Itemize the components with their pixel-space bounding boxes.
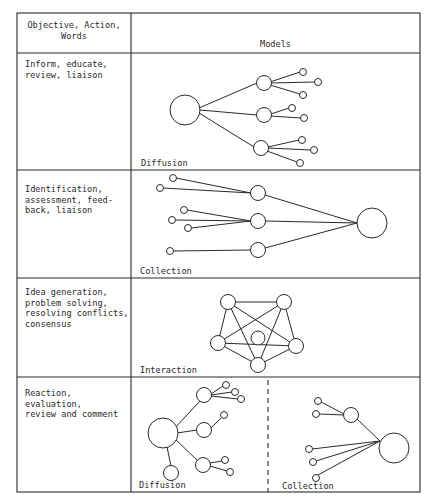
diffusion-diagram <box>170 69 322 167</box>
row-3-objective: Idea generation, problem solving, resolv… <box>25 287 128 329</box>
row-2-objective: Identification, assessment, feed- back, … <box>25 184 113 216</box>
model-label-diffusion: Diffusion <box>141 158 188 169</box>
model-label-diffusion-row4: Diffusion <box>139 480 186 491</box>
header-models: Models <box>131 39 420 50</box>
row-4-objective: Reaction, evaluation, review and comment <box>25 388 118 420</box>
models-table: Objective, Action, Words Models Inform, … <box>0 0 429 503</box>
interaction-diagram <box>211 295 304 373</box>
model-label-interaction: Interaction <box>140 365 197 376</box>
collection-diagram-small <box>306 398 410 482</box>
header-objective: Objective, Action, Words <box>17 20 131 41</box>
collection-diagram <box>157 175 388 258</box>
model-label-collection-row4: Collection <box>282 481 334 492</box>
row-1-objective: Inform, educate, review, liaison <box>25 59 108 80</box>
model-label-collection: Collection <box>140 266 192 277</box>
diffusion-diagram-small <box>148 382 245 481</box>
